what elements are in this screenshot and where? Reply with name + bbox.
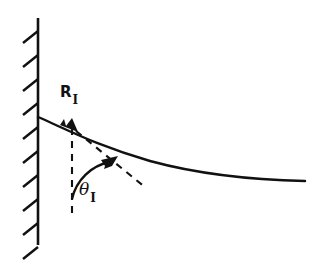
ray-label-subscript: I	[73, 93, 79, 107]
hatch-mark	[23, 31, 38, 43]
hatch-mark	[23, 175, 38, 187]
hatch-mark	[23, 247, 38, 259]
ray-label: RI	[60, 84, 77, 100]
ray-reflection-diagram	[0, 0, 316, 267]
hatch-mark	[23, 103, 38, 115]
hatch-mark	[23, 79, 38, 91]
hatch-mark	[23, 55, 38, 67]
hatch-mark	[23, 223, 38, 235]
hatch-mark	[23, 127, 38, 139]
figure-container: RI θI	[0, 0, 316, 267]
ray-label-symbol: R	[60, 83, 72, 101]
angle-label-symbol: θ	[79, 179, 89, 199]
hatch-mark	[23, 151, 38, 163]
hatch-mark	[23, 199, 38, 211]
ray-curve	[38, 117, 305, 181]
wall-hatching	[23, 31, 38, 259]
angle-label: θI	[79, 181, 95, 198]
angle-label-subscript: I	[90, 191, 96, 205]
